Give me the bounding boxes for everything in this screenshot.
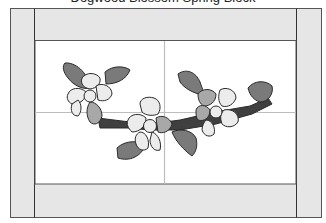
- quilt-block-diagram: [0, 0, 326, 223]
